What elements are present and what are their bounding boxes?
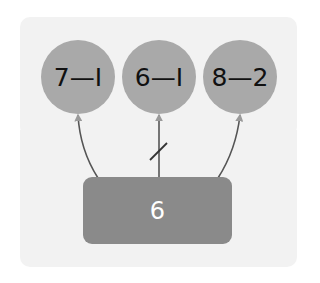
node-top-middle: 6—I xyxy=(122,40,196,114)
box-label: 6 xyxy=(150,197,165,225)
node-label: 7—I xyxy=(54,63,102,92)
link-left xyxy=(78,115,98,178)
node-label: 6—I xyxy=(135,63,183,92)
link-right xyxy=(218,115,240,178)
node-label: 8—2 xyxy=(212,63,269,92)
node-bottom-box: 6 xyxy=(83,177,232,244)
node-top-right: 8—2 xyxy=(203,40,277,114)
node-top-left: 7—I xyxy=(41,40,115,114)
